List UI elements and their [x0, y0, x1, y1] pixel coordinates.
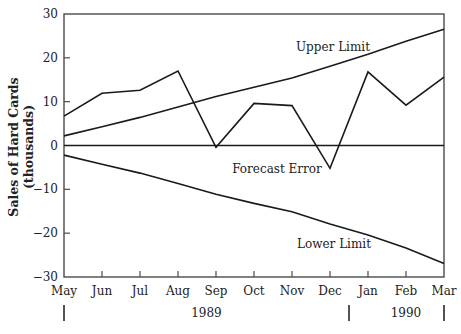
label-forecast-error: Forecast Error [232, 162, 322, 176]
x-tick-label: Dec [318, 284, 342, 298]
y-tick-label: −30 [33, 270, 58, 284]
x-tick-label: Feb [395, 284, 418, 298]
y-tick-label: 0 [50, 139, 58, 153]
x-tick-label: Jan [356, 284, 378, 298]
x-tick-label: Aug [165, 284, 190, 298]
x-tick-label: Jun [90, 284, 113, 298]
y-tick-label: 10 [43, 95, 58, 109]
x-tick-label: May [51, 284, 77, 298]
y-tick-label: 20 [43, 51, 58, 65]
series-lines [64, 29, 444, 263]
control-chart: 3020100−10−20−30 MayJunJulAugSepOctNovDe… [0, 0, 461, 334]
x-tick-label: Mar [431, 284, 456, 298]
y-axis-title: Sales of Hard Cards (thousands) [6, 77, 36, 216]
x-tick-label: Oct [243, 284, 265, 298]
x-axis-ticks: MayJunJulAugSepOctNovDecJanFebMar [51, 271, 457, 298]
y-tick-label: −10 [33, 182, 58, 196]
series-forecast-error [64, 71, 444, 168]
year-label: 1989 [191, 306, 222, 320]
year-label: 1990 [391, 306, 422, 320]
y-axis-title-main: Sales of Hard Cards [6, 77, 21, 216]
x-tick-label: Jul [130, 284, 149, 298]
label-lower-limit: Lower Limit [297, 237, 371, 251]
y-axis-title-sub: (thousands) [21, 105, 36, 189]
x-tick-label: Nov [280, 284, 305, 298]
year-groups: 19891990 [64, 305, 444, 321]
y-tick-label: −20 [33, 226, 58, 240]
y-tick-label: 30 [43, 7, 58, 21]
x-tick-label: Sep [204, 284, 227, 298]
series-upper-limit [64, 29, 444, 136]
label-upper-limit: Upper Limit [296, 40, 370, 54]
